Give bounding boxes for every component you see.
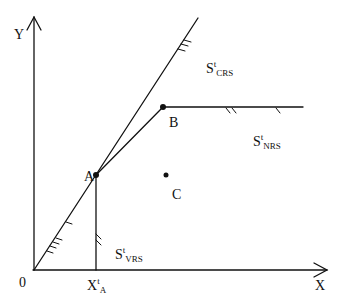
ray-lower-hatches	[47, 222, 72, 253]
origin-label: 0	[19, 276, 26, 290]
crs-frontier-ray	[34, 18, 198, 270]
region-label-vrs: StVRS	[115, 248, 143, 262]
point-b-dot	[160, 104, 166, 110]
y-axis-label: Y	[14, 28, 24, 42]
x-axis-label: X	[315, 279, 325, 293]
point-c-label: C	[172, 188, 181, 202]
xa-base: X	[87, 278, 97, 293]
horizontal-hatches	[226, 108, 280, 113]
diagram-canvas	[0, 0, 342, 308]
region-label-nrs: StNRS	[253, 135, 281, 149]
xa-sub: A	[100, 285, 107, 295]
point-c-dot	[164, 173, 169, 178]
vrs-sub: VRS	[125, 254, 143, 264]
nrs-base: S	[253, 134, 261, 149]
point-b-label: B	[169, 116, 178, 130]
vrs-base: S	[115, 247, 123, 262]
point-a-label: A	[84, 170, 94, 184]
vertical-hatches	[96, 234, 101, 245]
production-frontier-diagram: Y X 0 A B C XtA StCRS StNRS StVRS	[0, 0, 342, 308]
vrs-frontier-segment-ab	[96, 107, 163, 175]
nrs-sub: NRS	[263, 141, 281, 151]
crs-base: S	[206, 61, 214, 76]
region-label-crs: StCRS	[206, 62, 233, 76]
crs-sub: CRS	[216, 68, 233, 78]
xa-tick-label: XtA	[87, 279, 106, 293]
